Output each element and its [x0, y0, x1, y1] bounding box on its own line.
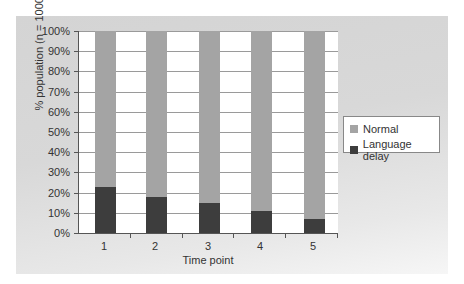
x-tick: [285, 233, 286, 238]
x-tick: [337, 233, 338, 238]
legend-item-normal: Normal: [350, 123, 398, 135]
y-tick-label: 50%: [30, 126, 70, 138]
y-tick-label: 60%: [30, 106, 70, 118]
y-tick: [74, 92, 79, 93]
x-axis-title: Time point: [178, 254, 238, 266]
y-tick-label: 70%: [30, 86, 70, 98]
y-tick: [74, 152, 79, 153]
y-tick: [74, 31, 79, 32]
bar-segment-language-delay: [146, 197, 167, 233]
bar-segment-normal: [199, 31, 220, 203]
y-tick: [74, 112, 79, 113]
bar-segment-normal: [251, 31, 272, 211]
legend-label: Normal: [363, 123, 398, 135]
bar-segment-normal: [95, 31, 116, 187]
y-tick: [74, 172, 79, 173]
y-tick-label: 10%: [30, 207, 70, 219]
x-tick-label: 2: [145, 240, 165, 252]
y-tick-label: 90%: [30, 45, 70, 57]
y-tick: [74, 132, 79, 133]
y-tick: [74, 51, 79, 52]
legend-item-language-delay: Language delay: [350, 138, 439, 162]
bar-segment-language-delay: [304, 219, 325, 233]
y-tick-label: 30%: [30, 166, 70, 178]
x-tick: [182, 233, 183, 238]
y-tick: [74, 71, 79, 72]
bar-segment-normal: [304, 31, 325, 219]
y-tick: [74, 233, 79, 234]
plot-area: [78, 31, 338, 234]
bar-segment-language-delay: [199, 203, 220, 233]
x-tick: [233, 233, 234, 238]
legend-label: Language delay: [363, 138, 439, 162]
y-tick-label: 20%: [30, 187, 70, 199]
x-tick-label: 5: [303, 240, 323, 252]
bar-timepoint-1: [95, 31, 116, 233]
bar-timepoint-4: [251, 31, 272, 233]
legend-swatch-language-delay: [350, 146, 358, 154]
x-tick-label: 1: [94, 240, 114, 252]
y-tick-label: 100%: [30, 25, 70, 37]
bar-segment-language-delay: [251, 211, 272, 233]
x-tick: [130, 233, 131, 238]
bar-segment-normal: [146, 31, 167, 197]
legend: Normal Language delay: [343, 116, 440, 153]
legend-swatch-normal: [350, 125, 358, 133]
bar-timepoint-3: [199, 31, 220, 233]
y-tick: [74, 213, 79, 214]
y-tick-label: 0%: [30, 227, 70, 239]
x-tick-label: 4: [250, 240, 270, 252]
y-tick: [74, 193, 79, 194]
bar-segment-language-delay: [95, 187, 116, 233]
bar-timepoint-2: [146, 31, 167, 233]
bar-timepoint-5: [304, 31, 325, 233]
y-tick-label: 40%: [30, 146, 70, 158]
x-tick-label: 3: [198, 240, 218, 252]
y-tick-label: 80%: [30, 65, 70, 77]
